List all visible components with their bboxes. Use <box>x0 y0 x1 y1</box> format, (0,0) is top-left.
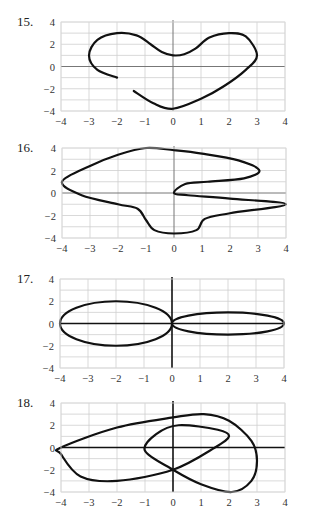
x-tick-label: 2 <box>227 243 232 254</box>
chart-17: 17.−4−3−2−101234−4−2024 <box>17 271 287 384</box>
x-tick-label: 1 <box>197 373 202 384</box>
y-tick-label: 0 <box>51 188 56 199</box>
y-tick-label: 0 <box>50 443 55 454</box>
y-tick-label: 2 <box>49 296 54 307</box>
y-tick-label: −4 <box>45 233 57 244</box>
x-tick-label: −3 <box>82 373 93 384</box>
y-tick-label: 4 <box>49 274 55 285</box>
x-tick-label: 3 <box>254 116 259 127</box>
problem-number: 16. <box>17 140 33 155</box>
curve <box>56 414 257 492</box>
y-tick-label: 4 <box>50 398 56 409</box>
x-tick-label: 4 <box>281 373 287 384</box>
x-tick-label: −1 <box>139 497 150 508</box>
x-tick-label: 0 <box>169 373 174 384</box>
x-tick-label: 2 <box>226 116 231 127</box>
y-tick-label: 2 <box>51 166 56 177</box>
chart-16: 16.−4−3−2−101234−4−2024 <box>17 140 289 254</box>
charts-canvas: 15.−4−3−2−101234−4−202416.−4−3−2−101234−… <box>0 0 309 516</box>
x-tick-label: 4 <box>283 243 289 254</box>
x-tick-label: 1 <box>198 497 203 508</box>
problem-number: 15. <box>17 14 33 29</box>
x-tick-label: −4 <box>55 497 67 508</box>
y-tick-label: −2 <box>44 465 55 476</box>
x-tick-label: 2 <box>225 373 230 384</box>
x-tick-label: −4 <box>56 243 68 254</box>
y-tick-label: −2 <box>43 341 54 352</box>
x-tick-label: 3 <box>255 243 260 254</box>
y-tick-label: 0 <box>49 319 54 330</box>
x-tick-label: −3 <box>84 243 95 254</box>
x-tick-label: −4 <box>54 373 66 384</box>
chart-18: 18.−4−3−2−101234−4−2024 <box>17 395 288 508</box>
x-tick-label: 0 <box>170 116 175 127</box>
problem-number: 17. <box>17 271 33 286</box>
x-tick-label: −2 <box>112 243 123 254</box>
y-tick-label: −2 <box>45 211 56 222</box>
x-tick-label: −2 <box>111 497 122 508</box>
problem-number: 18. <box>17 395 33 410</box>
x-tick-label: −1 <box>140 243 151 254</box>
y-tick-label: 4 <box>50 17 56 28</box>
y-tick-label: 0 <box>50 62 55 73</box>
x-tick-label: 1 <box>198 116 203 127</box>
x-tick-label: −1 <box>139 116 150 127</box>
x-tick-label: −3 <box>83 497 94 508</box>
axes <box>61 401 285 492</box>
x-tick-label: 4 <box>282 116 288 127</box>
y-tick-label: −4 <box>43 363 55 374</box>
x-tick-label: 4 <box>282 497 288 508</box>
x-tick-label: 0 <box>171 243 176 254</box>
y-tick-label: 2 <box>50 39 55 50</box>
x-tick-label: −2 <box>111 116 122 127</box>
x-tick-label: −3 <box>83 116 94 127</box>
y-tick-label: 2 <box>50 420 55 431</box>
x-tick-label: 2 <box>226 497 231 508</box>
chart-15: 15.−4−3−2−101234−4−2024 <box>17 14 288 127</box>
y-tick-label: −2 <box>44 84 55 95</box>
x-tick-label: −2 <box>110 373 121 384</box>
y-tick-label: −4 <box>44 487 56 498</box>
parametric-curve <box>56 414 257 492</box>
y-tick-label: 4 <box>51 143 57 154</box>
y-tick-label: −4 <box>44 106 56 117</box>
x-tick-label: 1 <box>199 243 204 254</box>
x-tick-label: 0 <box>170 497 175 508</box>
x-tick-label: −4 <box>55 116 67 127</box>
x-tick-label: 3 <box>253 373 258 384</box>
x-tick-label: −1 <box>138 373 149 384</box>
x-tick-label: 3 <box>254 497 259 508</box>
